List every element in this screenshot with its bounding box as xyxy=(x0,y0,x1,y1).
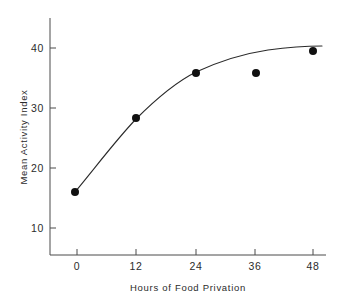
data-point-36h xyxy=(252,69,260,77)
x-tick-label-0: 0 xyxy=(74,260,80,272)
y-axis-ticks xyxy=(50,48,56,228)
data-point-0h xyxy=(71,188,79,196)
chart-figure: 40 30 20 10 0 12 24 36 48 xyxy=(0,0,343,307)
scatter-plot-svg: 40 30 20 10 0 12 24 36 48 xyxy=(0,0,343,307)
data-point-12h xyxy=(132,114,140,122)
x-tick-label-48: 48 xyxy=(307,260,320,272)
y-tick-label-30: 30 xyxy=(31,102,44,114)
x-axis-tick-labels: 0 12 24 36 48 xyxy=(74,260,320,272)
y-tick-label-20: 20 xyxy=(31,162,44,174)
data-point-48h xyxy=(309,47,317,55)
y-tick-label-40: 40 xyxy=(31,42,44,54)
x-tick-label-36: 36 xyxy=(249,260,262,272)
x-tick-label-12: 12 xyxy=(130,260,143,272)
data-points xyxy=(71,47,317,196)
y-tick-label-10: 10 xyxy=(31,222,44,234)
x-tick-label-24: 24 xyxy=(190,260,203,272)
x-axis-title: Hours of Food Privation xyxy=(130,282,246,293)
data-point-24h xyxy=(192,69,200,77)
y-axis-title: Mean Activity Index xyxy=(18,89,29,184)
axis-spines xyxy=(50,18,326,255)
y-axis-tick-labels: 40 30 20 10 xyxy=(31,42,44,234)
x-axis-ticks xyxy=(77,249,313,255)
fitted-curve xyxy=(75,46,322,192)
